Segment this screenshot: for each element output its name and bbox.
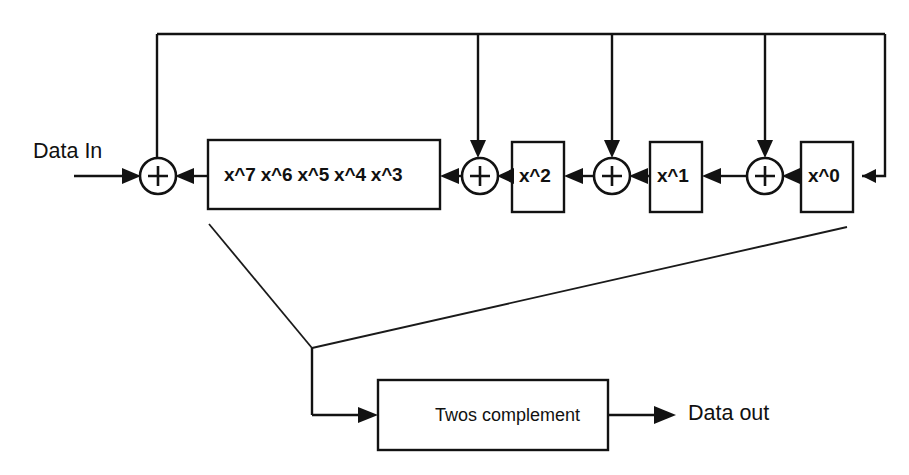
arrow-adder-x2-to-mainbox [440, 168, 459, 184]
output-tap-left-diagonal [209, 224, 312, 348]
arrow-adder-x1-to-x2 [564, 168, 583, 184]
arrow-data-out [654, 406, 676, 424]
arrow-adder-x0-to-x1 [702, 168, 721, 184]
wire-adder-x2-to-mainbox [440, 168, 462, 184]
stage-box-x2-label: x^2 [519, 165, 551, 186]
shift-register-main-box[interactable]: x^7 x^6 x^5 x^4 x^3 [208, 140, 440, 209]
arrow-into-adder-x2 [470, 140, 486, 158]
adder-input[interactable] [140, 158, 176, 194]
output-tap-right-diagonal [312, 227, 847, 348]
stage-box-x2[interactable]: x^2 [512, 142, 564, 212]
twos-complement-block[interactable]: Twos complement [378, 380, 608, 450]
data-out-label: Data out [688, 401, 769, 425]
tap-drop-lines-group [470, 34, 773, 158]
shift-register-main-box-label: x^7 x^6 x^5 x^4 x^3 [224, 164, 402, 185]
wire-x1-to-adder-x1 [629, 168, 650, 184]
arrow-into-twos-complement [358, 407, 378, 423]
stage-box-x0-label: x^0 [808, 165, 840, 186]
feedback-bus-right-drop [862, 34, 885, 176]
adder-x1[interactable] [594, 158, 630, 194]
arrow-x1-to-adder-x1 [629, 168, 648, 184]
wire-x0-to-adder-x0 [782, 168, 801, 184]
lfsr-diagram-svg: Data In x^7 x^6 x^5 x^4 x^3 [0, 0, 909, 475]
arrow-x0-to-adder-x0 [782, 168, 800, 184]
twos-complement-block-label: Twos complement [435, 405, 580, 425]
wire-adder-x1-to-x2 [564, 168, 594, 184]
wire-x2-to-adder-x2 [497, 168, 514, 184]
wire-mainbox-to-adder-input [175, 168, 208, 184]
adder-x2[interactable] [462, 158, 498, 194]
arrow-x2-to-adder-x2 [497, 168, 514, 184]
arrow-data-in-to-adder [122, 168, 141, 184]
stage-box-x1-label: x^1 [657, 165, 689, 186]
arrow-into-x0-from-bus [862, 169, 876, 183]
data-in-group: Data In [33, 139, 141, 184]
lfsr-diagram-canvas: Data In x^7 x^6 x^5 x^4 x^3 [0, 0, 909, 475]
data-in-label: Data In [33, 139, 102, 163]
adder-x0[interactable] [747, 158, 783, 194]
stage-box-x1[interactable]: x^1 [650, 142, 702, 212]
stage-box-x0[interactable]: x^0 [801, 142, 853, 212]
data-out-group: Data out [608, 401, 769, 425]
arrow-into-adder-x1 [604, 140, 620, 158]
arrow-into-adder-x0 [757, 140, 773, 158]
arrow-mainbox-to-adder-input [175, 168, 194, 184]
wire-adder-x0-to-x1 [702, 168, 747, 184]
